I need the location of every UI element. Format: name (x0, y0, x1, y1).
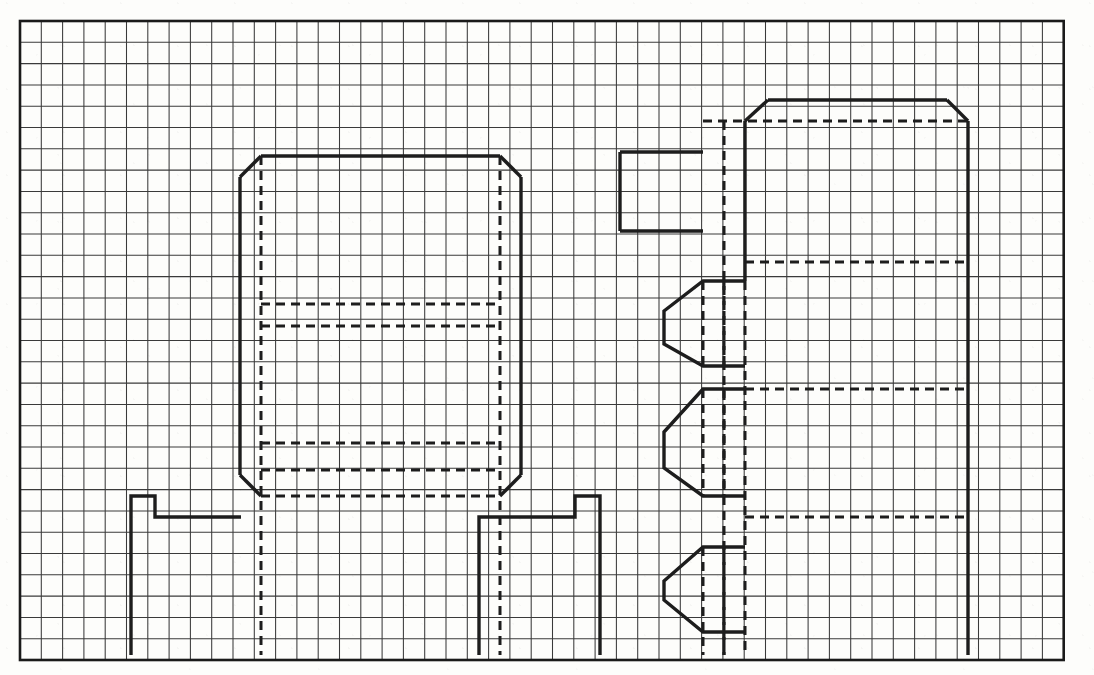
drawing-canvas (0, 0, 1094, 675)
graph-paper-sheet (0, 0, 1094, 675)
